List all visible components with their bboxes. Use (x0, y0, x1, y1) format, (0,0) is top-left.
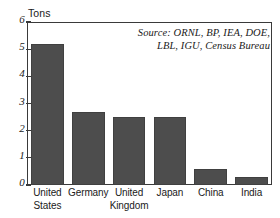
x-axis-category-label-line: India (227, 187, 276, 200)
bar-slot (31, 22, 64, 185)
y-axis-tick-label: 5 (19, 41, 25, 52)
source-annotation: Source: ORNL, BP, IEA, DOE,LBL, IGU, Cen… (112, 26, 270, 52)
bar (235, 177, 268, 185)
x-axis-category-label-line: Kingdom (105, 200, 154, 213)
y-axis-tick-label: 4 (19, 68, 25, 79)
bar (31, 44, 64, 185)
bar-slot (72, 22, 105, 185)
source-annotation-line: LBL, IGU, Census Bureau (112, 39, 270, 52)
x-axis-category-label-line: States (23, 200, 72, 213)
x-axis-category-label: India (227, 187, 276, 200)
bar (154, 117, 187, 185)
y-axis-tick-label: 2 (19, 123, 25, 134)
y-axis-tick-label: 1 (19, 150, 25, 161)
x-axis-category-labels: UnitedStatesGermanyUnitedKingdomJapanChi… (27, 187, 272, 218)
y-axis-unit-title: Tons (28, 7, 51, 19)
source-annotation-line: Source: ORNL, BP, IEA, DOE, (112, 26, 270, 39)
bar (72, 112, 105, 185)
y-axis-tick-label: 6 (19, 14, 25, 25)
y-axis-tick-label: 3 (19, 96, 25, 107)
bar (113, 117, 146, 185)
bar-chart-figure: Tons 0123456 UnitedStatesGermanyUnitedKi… (0, 0, 280, 218)
bar (194, 169, 227, 185)
